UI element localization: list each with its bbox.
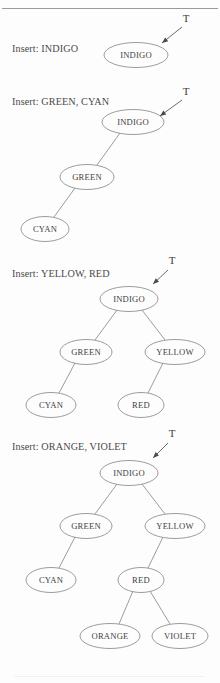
node-cyan-label: CYAN	[39, 400, 64, 410]
node-violet: VIOLET	[152, 624, 208, 649]
node-indigo-label: INDIGO	[113, 468, 145, 478]
root-pointer-label: T	[183, 12, 190, 24]
tree-edge	[148, 363, 163, 393]
node-green-ellipse	[60, 514, 112, 539]
bottom-scan-artifact	[14, 676, 204, 677]
node-green-ellipse	[60, 340, 112, 365]
node-yellow-ellipse	[145, 340, 205, 365]
tree-step-1: INDIGOT	[104, 12, 190, 68]
node-orange: ORANGE	[80, 624, 140, 649]
node-red-ellipse	[118, 393, 164, 418]
tree-edge	[95, 484, 117, 514]
caption-step-1: Insert: INDIGO	[12, 43, 78, 54]
diagram-page: Insert: INDIGO Insert: GREEN, CYAN Inser…	[0, 0, 220, 683]
node-red: RED	[118, 393, 164, 418]
root-pointer-label: T	[183, 85, 190, 97]
node-yellow: YELLOW	[145, 514, 205, 539]
node-cyan-label: CYAN	[33, 224, 58, 234]
node-indigo: INDIGO	[100, 287, 158, 312]
node-indigo: INDIGO	[100, 461, 158, 486]
caption-step-4: Insert: ORANGE, VIOLET	[12, 441, 127, 452]
node-violet-label: VIOLET	[164, 631, 197, 641]
tree-step-4: INDIGOGREENYELLOWCYANREDORANGEVIOLETT	[26, 427, 208, 649]
node-indigo-label: INDIGO	[113, 294, 145, 304]
tree-edge	[59, 537, 75, 568]
node-orange-label: ORANGE	[91, 631, 128, 641]
tree-edge	[148, 537, 163, 568]
root-pointer-arrow-head	[160, 111, 166, 116]
caption-step-3: Insert: YELLOW, RED	[12, 268, 110, 279]
node-cyan: CYAN	[26, 568, 76, 593]
tree-edge	[150, 591, 170, 624]
tree-edge	[119, 591, 133, 624]
tree-edge	[142, 484, 165, 514]
root-pointer-label: T	[169, 254, 176, 266]
node-green: GREEN	[60, 340, 112, 365]
root-pointer-label: T	[169, 427, 176, 439]
node-yellow-label: YELLOW	[156, 347, 194, 357]
node-green-label: GREEN	[71, 347, 101, 357]
node-indigo-ellipse	[100, 287, 158, 312]
tree-edge	[142, 310, 165, 340]
node-green: GREEN	[60, 165, 114, 190]
root-pointer-arrow-shaft	[153, 443, 168, 458]
node-indigo-label: INDIGO	[117, 117, 149, 127]
node-green-label: GREEN	[72, 172, 102, 182]
caption-step-2: Insert: GREEN, CYAN	[12, 96, 109, 107]
node-indigo-ellipse	[102, 110, 164, 135]
node-violet-ellipse	[152, 624, 208, 649]
node-yellow-label: YELLOW	[156, 521, 194, 531]
node-indigo-label: INDIGO	[120, 50, 152, 60]
root-pointer-arrow-head	[153, 278, 159, 284]
tree-edge	[59, 363, 75, 393]
root-pointer-arrow-head	[153, 452, 159, 458]
tree-edge	[95, 310, 117, 340]
node-red-label: RED	[132, 575, 150, 585]
root-pointer-arrow-shaft	[153, 270, 168, 284]
node-cyan-ellipse	[26, 568, 76, 593]
node-yellow: YELLOW	[145, 340, 205, 365]
node-red-ellipse	[118, 568, 164, 593]
node-indigo-ellipse	[104, 43, 168, 68]
node-yellow-ellipse	[145, 514, 205, 539]
tree-edge	[54, 188, 75, 217]
node-green-ellipse	[60, 165, 114, 190]
node-green-label: GREEN	[71, 521, 101, 531]
node-indigo-ellipse	[100, 461, 158, 486]
node-red-label: RED	[132, 400, 150, 410]
node-orange-ellipse	[80, 624, 140, 649]
root-pointer-arrow-shaft	[160, 100, 182, 116]
node-red: RED	[118, 568, 164, 593]
node-cyan-ellipse	[21, 217, 69, 242]
node-indigo: INDIGO	[102, 110, 164, 135]
tree-edge	[97, 133, 120, 165]
tree-step-2: INDIGOGREENCYANT	[21, 85, 190, 242]
node-cyan: CYAN	[26, 393, 76, 418]
node-cyan: CYAN	[21, 217, 69, 242]
node-cyan-label: CYAN	[39, 575, 64, 585]
top-divider-rule	[2, 8, 218, 9]
node-green: GREEN	[60, 514, 112, 539]
root-pointer-arrow-shaft	[162, 27, 182, 43]
node-cyan-ellipse	[26, 393, 76, 418]
node-indigo: INDIGO	[104, 43, 168, 68]
root-pointer-arrow-head	[162, 37, 168, 43]
